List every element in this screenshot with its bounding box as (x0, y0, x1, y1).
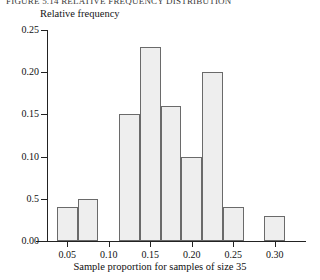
histogram-figure: FIGURE 5.14 RELATIVE FREQUENCY DISTRIBUT… (0, 0, 320, 280)
histogram-bar (223, 207, 244, 241)
histogram-bar (181, 157, 202, 241)
x-tick-mark (233, 241, 234, 247)
y-tick-label: 0.20 (0, 67, 39, 77)
y-tick-label: 0.00 (0, 236, 39, 246)
y-tick-label: 0.15 (0, 109, 39, 119)
y-tick-mark (41, 114, 47, 115)
histogram-bar (78, 199, 99, 241)
y-tick-mark (41, 30, 47, 31)
x-tick-label: 0.30 (255, 249, 295, 260)
x-tick-label: 0.20 (172, 249, 212, 260)
y-tick-label: 0.25 (0, 25, 39, 35)
histogram-bar (140, 47, 161, 241)
histogram-bar (119, 114, 140, 241)
x-tick-mark (275, 241, 276, 247)
y-tick-mark (41, 241, 47, 242)
y-tick-label: 0.10 (0, 152, 39, 162)
y-tick-label-text: 0.15 (22, 109, 40, 119)
x-tick-mark (150, 241, 151, 247)
figure-caption-clipped: FIGURE 5.14 RELATIVE FREQUENCY DISTRIBUT… (6, 0, 296, 5)
y-tick-label: 0.5 (0, 194, 39, 204)
x-tick-mark (67, 241, 68, 247)
histogram-bar (57, 207, 78, 241)
histogram-bar (161, 106, 182, 241)
histogram-bar (202, 72, 223, 241)
x-tick-label: 0.05 (47, 249, 87, 260)
y-tick-label-text: 0.20 (22, 67, 40, 77)
y-axis-line (47, 30, 48, 242)
y-tick-mark (41, 199, 47, 200)
x-tick-label: 0.10 (89, 249, 129, 260)
y-tick-label-text: 0.25 (22, 25, 40, 35)
x-tick-label: 0.15 (130, 249, 170, 260)
y-tick-mark (41, 72, 47, 73)
x-tick-label: 0.25 (213, 249, 253, 260)
y-tick-label-text: 0.00 (22, 236, 40, 246)
x-tick-mark (109, 241, 110, 247)
x-tick-mark (192, 241, 193, 247)
y-tick-mark (41, 157, 47, 158)
histogram-bar (264, 216, 285, 241)
y-axis-label: Relative frequency (40, 8, 120, 19)
y-tick-label-text: 0.10 (22, 152, 40, 162)
x-axis-line (36, 241, 306, 242)
x-axis-label: Sample proportion for samples of size 35 (0, 261, 320, 272)
y-tick-label-text: 0.5 (27, 194, 40, 204)
